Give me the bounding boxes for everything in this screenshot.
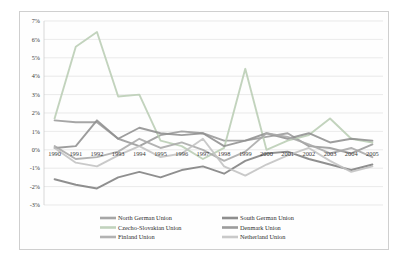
line-chart: 7%6%5%4%3%2%1%0%-1%-2%-3%199019911992199…: [0, 0, 408, 263]
chart-svg: 7%6%5%4%3%2%1%0%-1%-2%-3%199019911992199…: [0, 0, 408, 263]
y-axis-tick-label: 5%: [32, 54, 40, 61]
legend-label-1: South German Union: [240, 214, 295, 221]
x-axis-tick-label: 1994: [133, 150, 147, 157]
x-axis-tick-label: 2000: [260, 150, 273, 157]
legend-label-0: North German Union: [118, 214, 173, 221]
legend-label-3: Denmark Union: [240, 224, 282, 231]
series-line-3: [55, 120, 373, 148]
x-axis-tick-label: 1993: [112, 150, 125, 157]
y-axis-tick-label: 1%: [32, 128, 40, 135]
x-axis-tick-label: 1997: [197, 150, 211, 157]
x-axis-tick-label: 1992: [91, 150, 104, 157]
y-axis-tick-label: 2%: [32, 109, 40, 116]
x-axis-tick-label: 2005: [366, 150, 379, 157]
y-axis-tick-label: 3%: [32, 91, 40, 98]
y-axis-tick-label: 7%: [32, 17, 40, 24]
x-axis-tick-label: 2003: [324, 150, 337, 157]
y-axis-tick-label: -2%: [30, 183, 40, 190]
x-axis-tick-label: 2002: [302, 150, 315, 157]
x-axis-tick-label: 1996: [175, 150, 188, 157]
y-axis-tick-label: 6%: [32, 36, 40, 43]
x-axis-tick-label: 1999: [239, 150, 252, 157]
y-axis-tick-label: 4%: [32, 72, 40, 79]
x-axis-tick-label: 1998: [218, 150, 231, 157]
y-axis-tick-label: -1%: [30, 164, 40, 171]
legend-label-2: Czecho-Slovakian Union: [118, 224, 182, 231]
x-axis-tick-label: 2004: [345, 150, 359, 157]
x-axis-tick-label: 2001: [281, 150, 294, 157]
x-axis-tick-label: 1995: [154, 150, 167, 157]
x-axis-tick-label: 1990: [48, 150, 61, 157]
y-axis-tick-label: 0%: [32, 146, 40, 153]
y-axis-tick-label: -3%: [30, 201, 40, 208]
legend-label-4: Finland Union: [118, 233, 155, 240]
x-axis-tick-label: 1991: [69, 150, 82, 157]
legend-label-5: Netherland Union: [240, 233, 286, 240]
